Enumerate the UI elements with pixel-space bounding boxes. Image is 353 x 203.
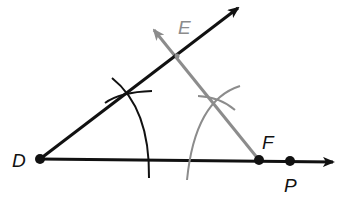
ray-DE [40, 8, 238, 159]
label-P: P [284, 176, 297, 195]
ray-FE [154, 30, 259, 160]
label-F: F [262, 133, 274, 152]
point-F [254, 155, 264, 165]
diagram-canvas: D E F P [0, 0, 353, 203]
label-E: E [178, 18, 191, 37]
point-P [285, 156, 295, 166]
arc-gray-large [187, 86, 240, 180]
point-D [35, 154, 45, 164]
label-D: D [12, 151, 26, 170]
construction-figure [0, 0, 353, 203]
point-E [175, 54, 180, 59]
